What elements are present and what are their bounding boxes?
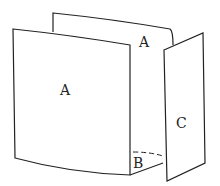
front-panel-a	[13, 29, 130, 175]
bottom-panel-label: B	[133, 155, 143, 171]
folded-panels-diagram: A A C B	[0, 0, 220, 186]
side-panel-c	[164, 33, 205, 181]
side-panel-label: C	[176, 115, 187, 131]
back-panel-label: A	[138, 34, 150, 50]
front-panel-label: A	[59, 82, 71, 98]
